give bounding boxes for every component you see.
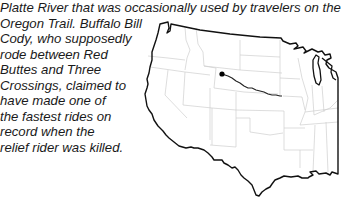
michigan-shore-outline (322, 58, 336, 80)
country-outline (145, 22, 338, 196)
state-borders (148, 27, 338, 172)
start-point-dot (219, 71, 224, 76)
us-map-figure (0, 0, 349, 198)
lake-michigan-outline (313, 55, 321, 85)
